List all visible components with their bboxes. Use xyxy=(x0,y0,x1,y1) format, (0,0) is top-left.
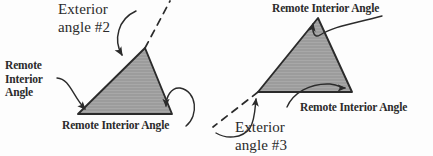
left-exterior-angle-label-line2: angle #2 xyxy=(58,19,110,37)
left-remote-interior-angle-line1: Remote xyxy=(5,59,43,73)
right-top-remote-interior-angle-label: Remote Interior Angle xyxy=(272,2,379,14)
right-remote-interior-top-arrow xyxy=(313,16,382,36)
left-exterior-ray-dashed xyxy=(145,1,170,48)
left-remote-interior-angle-line3: Angle xyxy=(5,86,43,100)
geometry-diagram-canvas: Exterior angle #2 Remote Interior Angle … xyxy=(0,0,433,156)
left-remote-interior-left-arrow xyxy=(57,78,85,109)
left-exterior-angle-arrow xyxy=(118,11,136,55)
left-bottom-remote-interior-angle-label: Remote Interior Angle xyxy=(62,119,169,131)
left-exterior-angle-label-line1: Exterior xyxy=(58,1,110,19)
right-exterior-angle-label-line1: Exterior xyxy=(235,119,287,137)
left-triangle-shape xyxy=(78,48,172,114)
left-exterior-angle-label: Exterior angle #2 xyxy=(58,1,110,36)
right-bottom-remote-interior-angle-label: Remote Interior Angle xyxy=(300,101,407,113)
right-triangle-shape xyxy=(258,18,352,92)
right-exterior-angle-label-line2: angle #3 xyxy=(235,137,287,155)
left-remote-interior-angle-line2: Interior xyxy=(5,73,43,87)
right-exterior-angle-label: Exterior angle #3 xyxy=(235,119,287,154)
left-remote-interior-angle-label: Remote Interior Angle xyxy=(5,59,43,100)
left-remote-interior-right-arrow xyxy=(166,88,194,126)
